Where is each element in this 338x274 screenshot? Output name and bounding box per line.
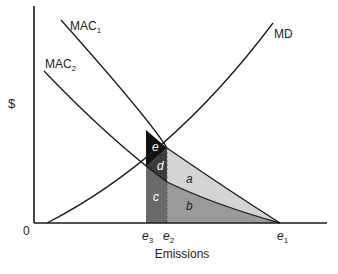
region-label-e: e — [152, 140, 159, 154]
x-axis-label: Emissions — [155, 247, 210, 261]
y-axis-label: $ — [8, 96, 16, 111]
tick-e2: e2 — [163, 229, 175, 245]
md-label: MD — [274, 27, 293, 41]
region-label-d: d — [157, 159, 164, 173]
mac1-label: MAC1 — [70, 19, 102, 35]
mac2-label: MAC2 — [45, 57, 77, 73]
emissions-diagram: MAC1 MAC2 MD $ 0 Emissions e3 e2 e1 e d … — [0, 0, 338, 274]
region-label-a: a — [186, 172, 193, 186]
region-label-c: c — [153, 190, 159, 204]
origin-label: 0 — [23, 224, 30, 238]
tick-e3: e3 — [142, 229, 154, 245]
tick-e1: e1 — [277, 229, 289, 245]
region-label-b: b — [186, 199, 193, 213]
